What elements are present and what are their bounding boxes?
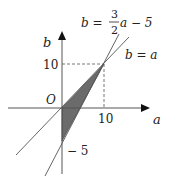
line2-label: b = a: [125, 48, 158, 62]
coordinate-diagram: b a O 10 10 − 5 b = 3 2 a − 5 b = a: [0, 0, 171, 183]
y-tick-neg5: − 5: [67, 144, 89, 158]
y-axis-label: b: [43, 35, 51, 50]
y-axis-arrow-icon: [58, 31, 66, 40]
line1-frac-den: 2: [111, 24, 118, 37]
line1-label-rhs: a − 5: [120, 16, 152, 30]
y-tick-10: 10: [43, 58, 58, 72]
line-b-equals-a: [16, 37, 129, 155]
line1-frac-num: 3: [111, 8, 118, 21]
line1-label-lhs: b =: [81, 16, 103, 30]
x-tick-10: 10: [98, 112, 113, 126]
origin-label: O: [46, 93, 56, 107]
x-axis-arrow-icon: [141, 104, 150, 112]
x-axis-label: a: [153, 112, 161, 127]
